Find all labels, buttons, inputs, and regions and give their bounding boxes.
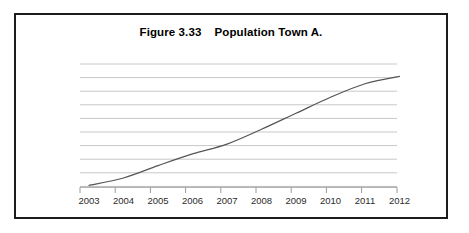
x-tick-label: 2009	[285, 195, 306, 206]
x-tick-label: 2007	[216, 195, 237, 206]
x-tick-label: 2005	[147, 195, 168, 206]
x-tick-label: 2006	[182, 195, 203, 206]
population-line-chart: 2003 2004 2005 2006 2007 2008 2009 2010 …	[16, 15, 446, 217]
x-axis-ticks	[80, 187, 397, 193]
x-tick-label: 2008	[251, 195, 272, 206]
figure-frame: Figure 3.33 Population Town A.	[14, 13, 448, 219]
x-tick-label: 2004	[113, 195, 134, 206]
x-tick-label: 2003	[78, 195, 99, 206]
gridlines	[80, 64, 397, 186]
x-tick-label: 2011	[355, 195, 375, 206]
x-tick-label: 2012	[389, 195, 410, 206]
data-line	[89, 76, 400, 185]
x-axis-tick-labels: 2003 2004 2005 2006 2007 2008 2009 2010 …	[78, 195, 410, 206]
x-tick-label: 2010	[320, 195, 341, 206]
